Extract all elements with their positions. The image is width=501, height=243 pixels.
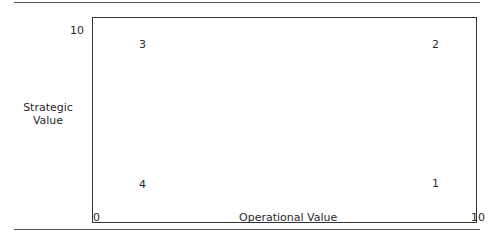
quadrant-label-2: 2 bbox=[432, 38, 439, 51]
x-axis-tick-max: 10 bbox=[471, 212, 485, 224]
y-axis-tick-max: 10 bbox=[70, 25, 84, 37]
bottom-rule bbox=[14, 229, 480, 230]
matrix-frame: 3 2 4 1 bbox=[92, 17, 477, 223]
y-axis-label-line1: Strategic bbox=[20, 101, 76, 114]
x-axis-tick-min: 0 bbox=[93, 212, 100, 224]
top-rule bbox=[14, 2, 480, 3]
x-axis-label: Operational Value bbox=[239, 212, 337, 224]
quadrant-label-4: 4 bbox=[139, 178, 146, 191]
quadrant-label-1: 1 bbox=[432, 177, 439, 190]
quadrant-label-3: 3 bbox=[139, 38, 146, 51]
y-axis-label: Strategic Value bbox=[20, 101, 76, 127]
y-axis-label-line2: Value bbox=[20, 114, 76, 127]
